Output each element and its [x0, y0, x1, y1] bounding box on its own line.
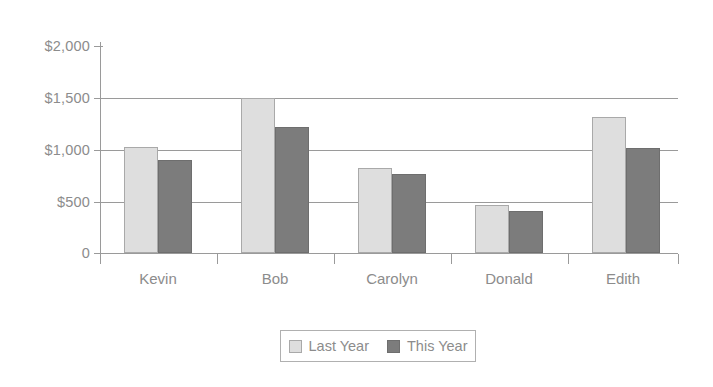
x-axis-line: [100, 253, 678, 254]
legend-swatch-icon-last-year: [289, 340, 302, 353]
category-label-kevin: Kevin: [139, 270, 177, 287]
bar-donald-this-year: [509, 211, 543, 253]
legend-item-last-year: Last Year: [289, 338, 369, 354]
bar-bob-last-year: [241, 98, 275, 253]
legend-label-last-year: Last Year: [309, 338, 369, 354]
bar-kevin-this-year: [158, 160, 192, 253]
bar-edith-last-year: [592, 117, 626, 253]
plot-area: [100, 46, 678, 253]
legend-swatch-icon-this-year: [387, 340, 400, 353]
category-label-edith: Edith: [606, 270, 640, 287]
bar-bob-this-year: [275, 127, 309, 253]
bar-donald-last-year: [475, 205, 509, 253]
y-axis-label-1000: $1,000: [4, 142, 90, 158]
category-label-carolyn: Carolyn: [366, 270, 418, 287]
y-axis-labels: $2,000 $1,500 $1,000 $500 0: [0, 0, 90, 387]
category-tick-1: [217, 254, 218, 264]
y-axis-label-500: $500: [4, 194, 90, 210]
legend-label-this-year: This Year: [407, 338, 467, 354]
gridline-1500: [100, 98, 678, 99]
bar-chart: $2,000 $1,500 $1,000 $500 0: [0, 0, 713, 387]
category-label-bob: Bob: [262, 270, 289, 287]
bar-carolyn-this-year: [392, 174, 426, 253]
chart-legend: Last Year This Year: [280, 330, 476, 362]
y-axis-label-0: 0: [4, 245, 90, 261]
bar-kevin-last-year: [124, 147, 158, 253]
category-tick-5: [678, 254, 679, 264]
category-tick-2: [334, 254, 335, 264]
category-tick-3: [451, 254, 452, 264]
category-label-donald: Donald: [485, 270, 533, 287]
category-tick-0: [100, 254, 101, 264]
y-axis-label-2000: $2,000: [4, 38, 90, 54]
category-tick-4: [568, 254, 569, 264]
y-axis-label-1500: $1,500: [4, 90, 90, 106]
bar-carolyn-last-year: [358, 168, 392, 253]
legend-item-this-year: This Year: [387, 338, 467, 354]
bar-edith-this-year: [626, 148, 660, 253]
